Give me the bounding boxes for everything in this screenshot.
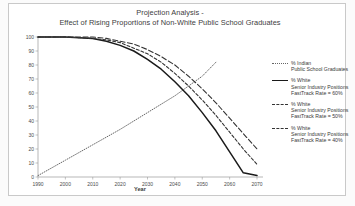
series-line [38, 37, 257, 176]
legend-item-white-40[interactable]: % White Senior Industry Positions FastTr… [272, 125, 350, 144]
solid-line-icon [272, 80, 288, 83]
dashed-line-icon [272, 104, 288, 107]
legend-item-white-50[interactable]: % White Senior Industry Positions FastTr… [272, 101, 350, 120]
y-tick-label: 70 [28, 76, 34, 82]
y-tick-label: 0 [31, 174, 34, 180]
y-tick-label: 100 [26, 34, 35, 40]
y-tick-label: 90 [28, 48, 34, 54]
x-axis-title: Year [20, 186, 260, 192]
series-line [38, 62, 216, 175]
legend-sublabel: Public School Graduates [291, 66, 350, 72]
legend-rate: FastTrack Rate = 60% [291, 90, 350, 96]
legend-sublabel: Senior Industry Positions [291, 84, 350, 90]
legend-rate: FastTrack Rate = 40% [291, 137, 350, 143]
y-tick-label: 60 [28, 90, 34, 96]
legend-item-indian[interactable]: % Indian Public School Graduates [272, 60, 350, 72]
y-tick-label: 40 [28, 118, 34, 124]
y-tick-label: 30 [28, 132, 34, 138]
legend-rate: FastTrack Rate = 50% [291, 113, 350, 119]
chart-figure: Projection Analysis - Effect of Rising P… [0, 0, 355, 206]
chart-legend: % Indian Public School Graduates % White… [272, 60, 350, 148]
y-tick-label: 10 [28, 160, 34, 166]
y-tick-label: 20 [28, 146, 34, 152]
y-tick-label: 80 [28, 62, 34, 68]
legend-item-white-60[interactable]: % White Senior Industry Positions FastTr… [272, 77, 350, 96]
long-dash-line-icon [272, 128, 288, 131]
y-tick-label: 50 [28, 104, 34, 110]
series-line [38, 37, 257, 164]
dotted-line-icon [272, 63, 288, 66]
